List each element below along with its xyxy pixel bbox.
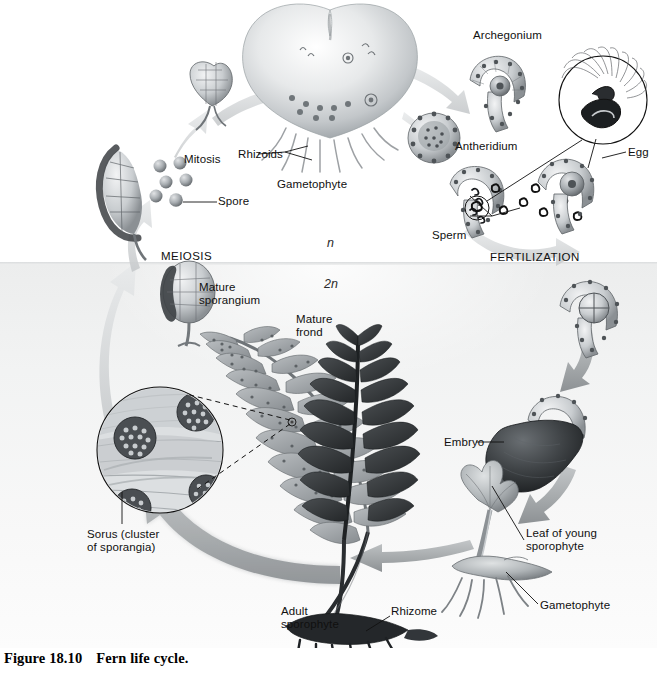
label-mitosis: Mitosis [184, 153, 220, 166]
heart-shaped-gametophyte-art [243, 4, 418, 172]
label-diploid: 2n [324, 277, 338, 291]
egg-archegonium-art [538, 159, 594, 234]
sorus-cluster [114, 417, 156, 459]
label-adult-sporophyte: Adult sporophyte [281, 605, 339, 631]
antheridium-art [408, 112, 460, 164]
label-mature-sporangium: Mature sporangium [199, 281, 260, 307]
fern-life-cycle-figure: Mitosis Spore Rhizoids Gametophyte Arche… [0, 0, 657, 648]
dark-frond-art [298, 324, 420, 540]
figure-caption: Figure 18.10Fern life cycle. [4, 650, 654, 667]
figure-number: Figure 18.10 [4, 650, 82, 666]
label-embryo: Embryo [444, 436, 484, 449]
label-haploid: n [327, 236, 334, 250]
label-mature-frond: Mature frond [296, 313, 332, 339]
zygote-art [560, 280, 619, 358]
label-gametophyte-top: Gametophyte [277, 178, 347, 191]
label-meiosis: MEIOSIS [161, 250, 212, 263]
figure-title: Fern life cycle. [96, 650, 188, 666]
label-archegonium: Archegonium [473, 29, 542, 42]
label-sperm: Sperm [432, 229, 466, 242]
label-antheridium: Antheridium [455, 140, 517, 153]
label-fertilization: FERTILIZATION [490, 251, 580, 264]
label-egg: Egg [628, 146, 649, 159]
label-sorus: Sorus (cluster of sporangia) [87, 528, 159, 554]
sorus-cluster [113, 489, 151, 527]
label-gametophyte-bottom: Gametophyte [540, 599, 610, 612]
label-leaf-of-young-sporophyte: Leaf of young sporophyte [526, 527, 597, 553]
mitosis-arrow [174, 110, 208, 158]
label-spore: Spore [218, 195, 249, 208]
label-rhizome: Rhizome [391, 605, 437, 618]
label-rhizoids: Rhizoids [238, 148, 283, 161]
archegonium-art [470, 56, 525, 132]
